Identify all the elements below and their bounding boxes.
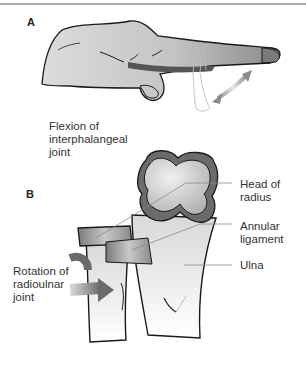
- label-annular-ligament: Annular ligament: [240, 220, 283, 246]
- label-ulna: Ulna: [240, 259, 264, 272]
- panel-letter-a: A: [27, 16, 35, 28]
- panel-letter-b: B: [26, 188, 34, 200]
- radioulnar-illustration: [70, 151, 218, 342]
- label-head-of-radius: Head of radius: [240, 178, 280, 204]
- label-rotation-radioulnar: Rotation of radioulnar joint: [13, 265, 69, 304]
- label-flexion-interphalangeal: Flexion of interphalangeal joint: [49, 120, 128, 159]
- hand-illustration: [42, 21, 280, 111]
